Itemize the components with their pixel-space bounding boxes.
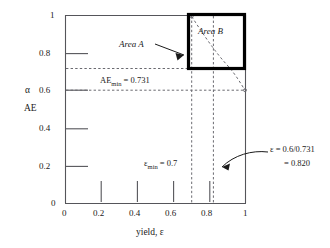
eps-min-subscript: min [148,163,158,170]
x-tick-label-02: 0.2 [93,209,104,218]
x-axis-ticks [101,181,210,202]
y-axis-label-ae: AE [24,104,37,114]
y-tick-label-06: 0.6 [39,86,50,95]
ae-min-value: = 0.731 [121,75,149,85]
y-axis-ticks [66,54,88,167]
x-tick-label-08: 0.8 [201,209,212,218]
y-tick-label-1: 1 [50,11,55,20]
y-axis-label-alpha: α [25,86,30,96]
x-tick-label-1: 1 [243,209,248,218]
ae-min-subscript: min [111,80,121,87]
y-tick-label-0: 0 [51,199,56,208]
x-axis-label: yield, ε [136,228,164,238]
y-tick-label-08: 0.8 [39,49,50,58]
y-tick-label-04: 0.4 [39,124,50,133]
x-tick-label-06: 0.6 [165,209,176,218]
eps-ratio-annotation-line1: ε = 0.6/0.731 [270,145,315,154]
ae-min-annotation: AEmin = 0.731 [100,76,150,87]
area-a-arrow [155,44,184,61]
ae-min-prefix: AE [100,75,111,85]
x-tick-label-0: 0 [62,209,67,218]
x-tick-label-04: 0.4 [129,209,140,218]
area-a-label: Area A [119,40,144,49]
chart-canvas: 1 0.8 0.6 0.4 0.2 0 α AE 0 0.2 0.4 0.6 0… [0,0,330,248]
area-b-box [189,15,245,69]
eps-min-value: = 0.7 [158,158,178,168]
y-tick-label-02: 0.2 [39,162,50,171]
eps-min-annotation: εmin = 0.7 [144,159,177,170]
area-b-label: Area B [198,27,223,36]
eps-ratio-annotation-line2: = 0.820 [284,159,310,168]
plot-frame [65,15,246,204]
